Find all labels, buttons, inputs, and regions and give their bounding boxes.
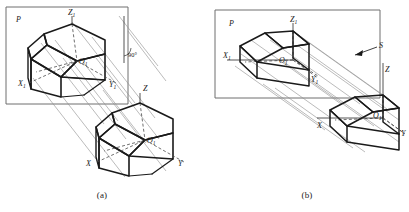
object-bottom-edge-a xyxy=(129,174,152,176)
projected-solid-b: Z1 X1 Y1 O1 xyxy=(222,15,318,86)
panel-a: 90° xyxy=(0,0,204,212)
panel-b: S xyxy=(205,0,409,212)
panel-a-drawing: 90° xyxy=(0,0,204,212)
arrowhead-icon xyxy=(355,50,363,56)
angle-label: 90° xyxy=(128,51,137,58)
projector-rays xyxy=(235,31,399,152)
object-top-face-a xyxy=(112,103,173,140)
label-z-b: Z xyxy=(385,65,390,74)
figure-root: 90° xyxy=(0,0,409,212)
label-y-a: Y xyxy=(178,159,184,168)
solid-front-face-a xyxy=(31,59,61,97)
projected-solid-a: Z1 X1 Y1 O1 xyxy=(17,8,116,97)
solid-top-edge-b xyxy=(283,44,309,48)
label-y-b: Y xyxy=(401,129,407,138)
label-x-a: X xyxy=(85,159,92,168)
object-front-face-a xyxy=(99,138,129,176)
label-x-b: X xyxy=(316,121,323,130)
label-o-b: O1 xyxy=(373,111,382,121)
label-z1-a: Z1 xyxy=(68,8,75,18)
label-z1-b: Z1 xyxy=(290,15,297,25)
label-plane-p-b: P xyxy=(228,19,234,28)
label-x1-b: X1 xyxy=(222,51,231,61)
label-y1-a: Y1 xyxy=(109,80,116,90)
right-angle-annotation: 90° xyxy=(124,16,137,63)
caption-a: (a) xyxy=(0,190,204,200)
label-o1-b: O1 xyxy=(279,56,288,66)
label-s-b: S xyxy=(379,41,383,50)
solid-bottom-edge-a xyxy=(61,95,84,97)
solid-right-face-b xyxy=(293,31,309,70)
solid-bottom-edge2-a xyxy=(84,80,105,95)
hidden-lines-projected-a xyxy=(36,24,105,72)
object-mid-edge-b xyxy=(347,126,399,134)
panel-b-drawing: S xyxy=(205,0,409,212)
label-y1-b: Y1 xyxy=(311,75,318,85)
solid-right-edge-a xyxy=(61,77,105,80)
label-x1-a: X1 xyxy=(17,79,26,89)
caption-b: (b) xyxy=(205,190,409,200)
object-solid-b: Z X Y O1 xyxy=(316,63,407,150)
object-left-chamfer-b xyxy=(330,97,373,126)
projection-direction-arrow: S xyxy=(355,41,383,56)
hidden-lines-object-a xyxy=(104,103,173,151)
solid-top-face-a xyxy=(44,24,105,61)
label-plane-p-a: P xyxy=(15,15,21,24)
object-bottom-edge2-a xyxy=(152,159,173,174)
label-z-a: Z xyxy=(143,84,148,93)
hidden-lines-object-b xyxy=(335,95,401,131)
